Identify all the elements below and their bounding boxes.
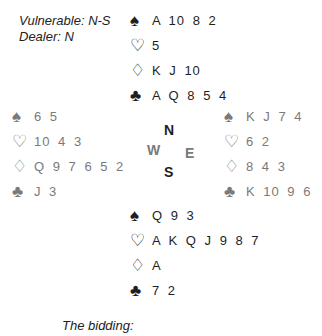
east-hearts-row: ♡ 6 2 (224, 129, 311, 154)
compass-west: W (147, 142, 160, 158)
heart-icon: ♡ (130, 37, 152, 54)
north-spades: A 10 8 2 (152, 13, 217, 28)
east-hearts: 6 2 (246, 134, 270, 149)
spade-icon: ♠ (12, 108, 34, 125)
west-clubs-row: ♣ J 3 (12, 179, 124, 204)
north-hand: ♠ A 10 8 2 ♡ 5 ♢ K J 10 ♣ A Q 8 5 4 (130, 8, 227, 108)
spade-icon: ♠ (224, 108, 246, 125)
west-diamonds: Q 9 7 6 5 2 (34, 159, 124, 174)
east-spades-row: ♠ K J 7 4 (224, 104, 311, 129)
north-diamonds: K J 10 (152, 63, 201, 78)
diamond-icon: ♢ (12, 158, 34, 175)
west-hand: ♠ 6 5 ♡ 10 4 3 ♢ Q 9 7 6 5 2 ♣ J 3 (12, 104, 124, 204)
north-clubs-row: ♣ A Q 8 5 4 (130, 83, 227, 108)
east-hand: ♠ K J 7 4 ♡ 6 2 ♢ 8 4 3 ♣ K 10 9 6 (224, 104, 311, 204)
south-spades: Q 9 3 (152, 208, 195, 223)
south-hearts-row: ♡ A K Q J 9 8 7 (130, 228, 260, 253)
club-icon: ♣ (224, 183, 246, 200)
west-diamonds-row: ♢ Q 9 7 6 5 2 (12, 154, 124, 179)
east-diamonds: 8 4 3 (246, 159, 286, 174)
vulnerable-label: Vulnerable: N-S (19, 13, 111, 29)
west-clubs: J 3 (34, 184, 57, 199)
diamond-icon: ♢ (224, 158, 246, 175)
south-clubs: 7 2 (152, 283, 176, 298)
deal-info: Vulnerable: N-S Dealer: N (19, 13, 111, 45)
dealer-label: Dealer: N (19, 29, 111, 45)
north-diamonds-row: ♢ K J 10 (130, 58, 227, 83)
south-hand: ♠ Q 9 3 ♡ A K Q J 9 8 7 ♢ A ♣ 7 2 (130, 203, 260, 303)
club-icon: ♣ (130, 87, 152, 104)
south-spades-row: ♠ Q 9 3 (130, 203, 260, 228)
heart-icon: ♡ (12, 133, 34, 150)
east-spades: K J 7 4 (246, 109, 302, 124)
club-icon: ♣ (130, 282, 152, 299)
heart-icon: ♡ (224, 133, 246, 150)
west-spades: 6 5 (34, 109, 58, 124)
south-diamonds-row: ♢ A (130, 253, 260, 278)
bidding-label: The bidding: (62, 318, 134, 333)
heart-icon: ♡ (130, 232, 152, 249)
north-spades-row: ♠ A 10 8 2 (130, 8, 227, 33)
west-hearts: 10 4 3 (34, 134, 82, 149)
north-clubs: A Q 8 5 4 (152, 88, 227, 103)
south-clubs-row: ♣ 7 2 (130, 278, 260, 303)
spade-icon: ♠ (130, 207, 152, 224)
north-hearts: 5 (152, 38, 160, 53)
west-spades-row: ♠ 6 5 (12, 104, 124, 129)
diamond-icon: ♢ (130, 62, 152, 79)
west-hearts-row: ♡ 10 4 3 (12, 129, 124, 154)
east-clubs-row: ♣ K 10 9 6 (224, 179, 311, 204)
diamond-icon: ♢ (130, 257, 152, 274)
south-hearts: A K Q J 9 8 7 (152, 233, 260, 248)
north-hearts-row: ♡ 5 (130, 33, 227, 58)
compass-north: N (164, 122, 174, 138)
compass-south: S (164, 164, 173, 180)
club-icon: ♣ (12, 183, 34, 200)
south-diamonds: A (152, 258, 162, 273)
east-diamonds-row: ♢ 8 4 3 (224, 154, 311, 179)
east-clubs: K 10 9 6 (246, 184, 311, 199)
spade-icon: ♠ (130, 12, 152, 29)
compass-east: E (185, 145, 194, 161)
